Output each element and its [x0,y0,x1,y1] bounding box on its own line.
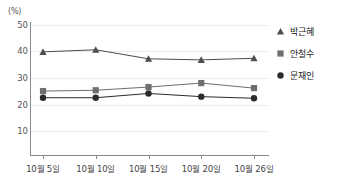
legend-item-안철수[interactable]: 안철수 [276,42,340,64]
data-point-문재인-2 [145,90,151,96]
circle-marker-icon-glyph [277,72,283,78]
data-point-안철수-0 [40,88,46,94]
legend-label-문재인: 문재인 [290,69,313,82]
legend-item-문재인[interactable]: 문재인 [276,64,340,86]
data-point-문재인-3 [198,93,204,99]
data-point-안철수-1 [93,87,99,93]
data-point-문재인-1 [93,95,99,101]
series-문재인 [40,90,257,101]
triangle-marker-icon-glyph [277,27,284,34]
triangle-marker-icon [276,27,285,36]
data-point-문재인-4 [251,95,257,101]
data-point-안철수-4 [251,85,257,91]
series-박근혜 [39,46,257,63]
data-point-안철수-2 [145,84,151,90]
legend-item-박근혜[interactable]: 박근혜 [276,20,340,42]
legend-label-박근혜: 박근혜 [290,25,313,38]
legend-label-안철수: 안철수 [290,47,313,60]
data-point-문재인-0 [40,95,46,101]
square-marker-icon-glyph [277,50,283,56]
chart-legend: 박근혜안철수문재인 [276,20,340,86]
circle-marker-icon [276,71,285,80]
poll-line-chart: (%) 5040302010 10월 5일10월 10일10월 15일10월 2… [0,0,343,179]
data-point-안철수-3 [198,80,204,86]
square-marker-icon [276,49,285,58]
